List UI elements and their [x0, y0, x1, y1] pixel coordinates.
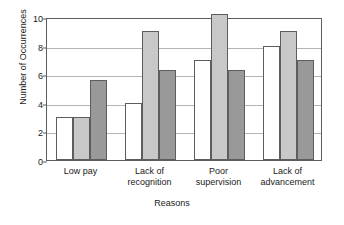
bar-group	[56, 19, 107, 160]
y-axis-tick-label: 6	[21, 72, 43, 81]
y-axis-tick-label: 0	[21, 158, 43, 167]
x-axis-label-line: advancement	[253, 177, 322, 188]
bar-group	[263, 19, 314, 160]
bar	[228, 70, 245, 160]
plot-inner: 0246810	[47, 19, 321, 160]
bar	[263, 46, 280, 160]
y-axis-tick-mark	[43, 47, 47, 48]
y-axis-tick-mark	[43, 19, 47, 20]
bar-group	[194, 19, 245, 160]
y-axis-tick-mark	[43, 104, 47, 105]
bar	[211, 14, 228, 160]
bar	[142, 31, 159, 160]
bar-chart: Number of Occurrences 0246810 Low payLac…	[0, 0, 344, 225]
x-axis-label-line: Poor	[184, 166, 253, 177]
plot-area: 0246810	[46, 18, 322, 161]
bar	[90, 80, 107, 160]
x-axis-title: Reasons	[0, 198, 344, 208]
y-axis-tick-mark	[43, 76, 47, 77]
bar	[194, 60, 211, 160]
x-axis-label-line: Lack of	[253, 166, 322, 177]
x-axis-category-label: Lack ofadvancement	[253, 166, 322, 188]
bar	[125, 103, 142, 160]
bar	[73, 117, 90, 160]
y-axis-tick-label: 10	[21, 15, 43, 24]
x-axis-label-line: recognition	[115, 177, 184, 188]
x-axis-category-label: Poorsupervision	[184, 166, 253, 188]
bar	[56, 117, 73, 160]
x-axis-category-label: Low pay	[46, 166, 115, 177]
bar	[159, 70, 176, 160]
x-axis-category-label: Lack ofrecognition	[115, 166, 184, 188]
bar	[297, 60, 314, 160]
bar	[280, 31, 297, 160]
y-axis-tick-label: 8	[21, 43, 43, 52]
x-axis-label-line: Low pay	[46, 166, 115, 177]
y-axis-tick-label: 4	[21, 100, 43, 109]
y-axis-tick-mark	[43, 133, 47, 134]
x-axis-label-line: Lack of	[115, 166, 184, 177]
x-axis-label-line: supervision	[184, 177, 253, 188]
y-axis-tick-mark	[43, 162, 47, 163]
bar-group	[125, 19, 176, 160]
y-axis-tick-label: 2	[21, 129, 43, 138]
